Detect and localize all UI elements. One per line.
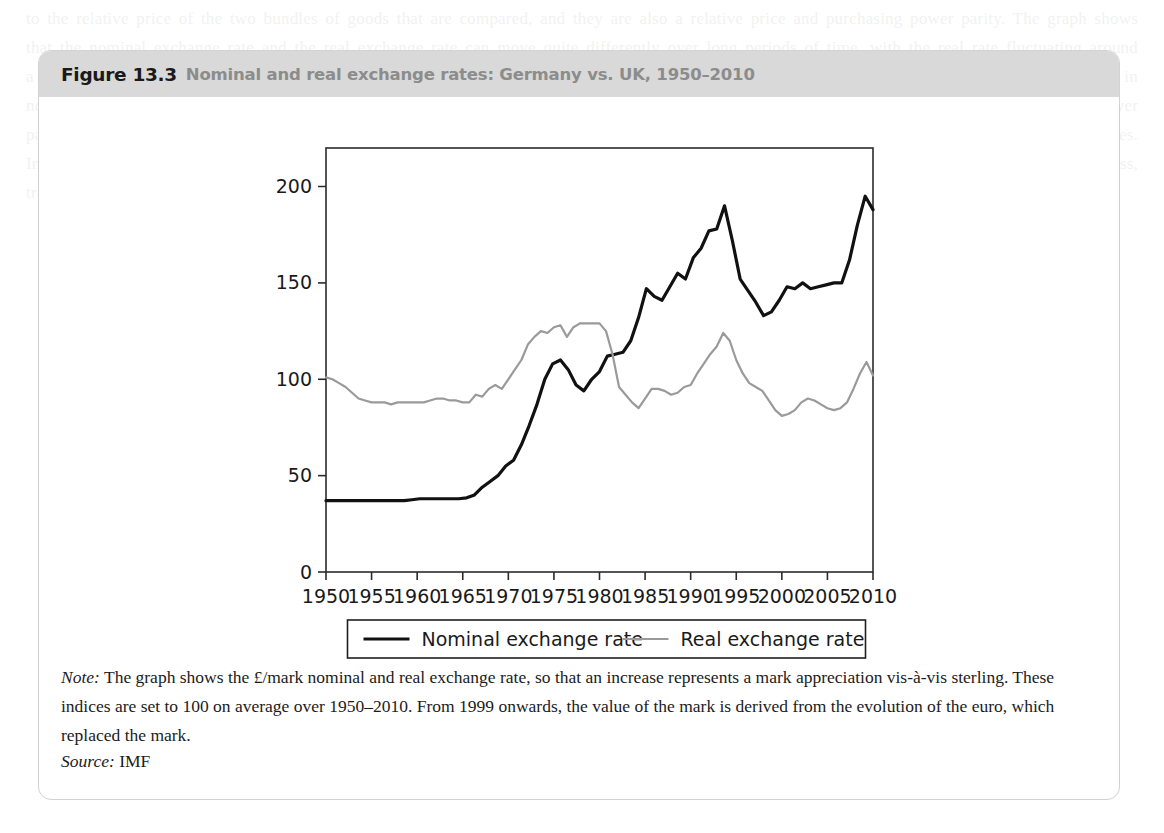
x-tick-label: 1985 [621, 585, 669, 607]
x-tick-label: 1960 [393, 585, 441, 607]
y-axis-tick-labels: 050100150200 [276, 175, 312, 582]
x-axis-ticks [326, 572, 873, 580]
figure-card: Figure 13.3 Nominal and real exchange ra… [38, 50, 1120, 800]
x-tick-label: 1965 [439, 585, 487, 607]
source-text: IMF [115, 751, 151, 771]
x-axis-tick-labels: 1950195519601965197019751980198519901995… [302, 585, 897, 607]
x-tick-label: 1980 [575, 585, 623, 607]
x-tick-label: 2005 [803, 585, 851, 607]
exchange-rate-line-chart: 050100150200 195019551960196519701975198… [39, 97, 1120, 662]
figure-source: Source: IMF [61, 751, 150, 772]
x-tick-label: 1950 [302, 585, 350, 607]
figure-number: Figure 13.3 [61, 64, 177, 85]
x-tick-label: 1975 [530, 585, 578, 607]
x-tick-label: 1995 [712, 585, 760, 607]
y-tick-label: 0 [300, 561, 312, 583]
figure-note: Note: The graph shows the £/mark nominal… [61, 663, 1101, 750]
figure-caption: Nominal and real exchange rates: Germany… [186, 65, 755, 84]
source-label: Source: [61, 751, 115, 771]
y-tick-label: 200 [276, 175, 312, 197]
x-tick-label: 2010 [849, 585, 897, 607]
series-lines [326, 196, 873, 501]
y-tick-label: 150 [276, 271, 312, 293]
note-label: Note: [61, 667, 100, 687]
plot-frame [326, 148, 873, 572]
legend-label: Real exchange rate [681, 628, 865, 650]
chart-legend: Nominal exchange rateReal exchange rate [348, 620, 866, 658]
x-tick-label: 2000 [758, 585, 806, 607]
y-axis-ticks [318, 187, 326, 572]
y-tick-label: 50 [288, 464, 312, 486]
x-tick-label: 1970 [484, 585, 532, 607]
x-tick-label: 1955 [347, 585, 395, 607]
series-line-nominal [326, 196, 873, 501]
note-text: The graph shows the £/mark nominal and r… [61, 667, 1054, 745]
chart-area: 050100150200 195019551960196519701975198… [39, 97, 1120, 662]
y-tick-label: 100 [276, 368, 312, 390]
figure-header: Figure 13.3 Nominal and real exchange ra… [39, 51, 1119, 97]
legend-label: Nominal exchange rate [422, 628, 643, 650]
x-tick-label: 1990 [666, 585, 714, 607]
